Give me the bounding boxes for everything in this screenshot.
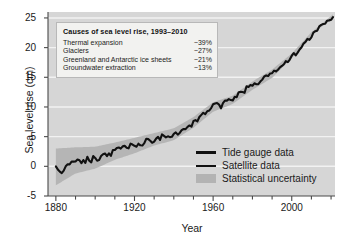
legend-item: Tide gauge data bbox=[196, 146, 336, 159]
legend-swatch-line-thin-icon bbox=[196, 159, 216, 172]
x-axis-tick-label: 1920 bbox=[112, 203, 156, 213]
info-box-row-value: ~13% bbox=[188, 64, 212, 72]
legend-item-label: Satellite data bbox=[222, 160, 280, 171]
info-box-row-value: ~21% bbox=[188, 56, 212, 64]
info-box-row-label: Greenland and Antarctic ice sheets bbox=[63, 56, 188, 64]
y-axis-tick-label: 0 bbox=[0, 161, 36, 171]
info-box-title: Causes of sea level rise, 1993–2010 bbox=[63, 27, 212, 36]
info-box-row-value: ~27% bbox=[188, 47, 212, 55]
x-axis-tick-label: 2000 bbox=[270, 203, 314, 213]
info-box-row-value: ~39% bbox=[188, 39, 212, 47]
legend-swatch-band-icon bbox=[196, 172, 216, 185]
info-box-row: Greenland and Antarctic ice sheets~21% bbox=[63, 56, 212, 64]
x-axis-tick-label: 1880 bbox=[34, 203, 78, 213]
causes-info-box: Causes of sea level rise, 1993–2010 Ther… bbox=[56, 22, 218, 78]
legend-item: Satellite data bbox=[196, 159, 336, 172]
info-box-row: Groundwater extraction~13% bbox=[63, 64, 212, 72]
y-axis-tick-label: -5 bbox=[0, 191, 36, 201]
x-axis-label: Year bbox=[48, 222, 336, 234]
info-box-row-label: Thermal expansion bbox=[63, 39, 188, 47]
info-box-row: Thermal expansion~39% bbox=[63, 39, 212, 47]
y-axis-tick-label: 15 bbox=[0, 72, 36, 82]
legend-item-label: Tide gauge data bbox=[222, 147, 294, 158]
x-axis-tick-label: 1960 bbox=[191, 203, 235, 213]
sea-level-rise-chart: Sea level rise (cm) Year -50510152025 18… bbox=[0, 0, 350, 239]
info-box-rows: Thermal expansion~39%Glaciers~27%Greenla… bbox=[63, 39, 212, 73]
chart-legend: Tide gauge dataSatellite dataStatistical… bbox=[196, 146, 336, 185]
info-box-row-label: Groundwater extraction bbox=[63, 64, 188, 72]
legend-item-label: Statistical uncertainty bbox=[222, 173, 317, 184]
y-axis-tick-label: 25 bbox=[0, 13, 36, 23]
info-box-row-label: Glaciers bbox=[63, 47, 188, 55]
legend-rows: Tide gauge dataSatellite dataStatistical… bbox=[196, 146, 336, 185]
y-axis-tick-label: 20 bbox=[0, 43, 36, 53]
y-axis-tick-label: 5 bbox=[0, 132, 36, 142]
legend-item: Statistical uncertainty bbox=[196, 172, 336, 185]
legend-swatch-line-thick-icon bbox=[196, 146, 216, 159]
info-box-row: Glaciers~27% bbox=[63, 47, 212, 55]
y-axis-tick-label: 10 bbox=[0, 102, 36, 112]
